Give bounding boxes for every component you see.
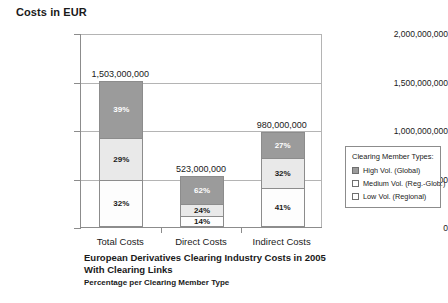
caption-line-3: Percentage per Clearing Member Type <box>84 278 384 287</box>
y-axis-tick-mark <box>74 228 81 229</box>
legend-swatch-low-icon <box>352 193 359 200</box>
y-axis-tick-label: 0 <box>370 223 448 233</box>
legend-swatch-medium-icon <box>352 180 359 187</box>
bar-segment-low[interactable]: 14% <box>180 216 224 227</box>
y-axis-tick-label: 1,000,000,000 <box>370 126 448 136</box>
bar-segment-high[interactable]: 39% <box>99 81 143 137</box>
x-axis-category-label: Indirect Costs <box>253 236 311 247</box>
bar-segment-low[interactable]: 32% <box>99 180 143 227</box>
chart-figure: Costs in EUR 0500,000,0001,000,000,0001,… <box>0 0 448 303</box>
bar-segment-high[interactable]: 62% <box>180 176 224 204</box>
chart-caption: European Derivatives Clearing Industry C… <box>84 252 384 287</box>
bar-total-costs[interactable]: 39%29%32% <box>99 81 143 227</box>
legend-item-medium[interactable]: Medium Vol. (Reg.-Glob.) <box>352 179 435 188</box>
legend-title: Clearing Member Types: <box>352 152 435 161</box>
bar-segment-high[interactable]: 27% <box>261 132 305 158</box>
bar-segment-medium[interactable]: 24% <box>180 204 224 216</box>
y-axis-tick-label: 2,000,000,000 <box>370 29 448 39</box>
bar-total-label: 523,000,000 <box>141 164 261 174</box>
legend-item-low[interactable]: Low Vol. (Regional) <box>352 192 435 201</box>
legend-item-label: Low Vol. (Regional) <box>363 192 426 201</box>
bar-indirect-costs[interactable]: 27%32%41% <box>261 132 305 227</box>
gridline <box>81 34 322 35</box>
caption-line-1: European Derivatives Clearing Industry C… <box>84 252 384 264</box>
y-axis-title: Costs in EUR <box>16 6 87 18</box>
x-axis-tick-mark <box>161 228 162 233</box>
bar-total-label: 980,000,000 <box>222 120 342 130</box>
legend-swatch-high-icon <box>352 167 359 174</box>
legend-item-label: High Vol. (Global) <box>363 166 420 175</box>
legend-item-label: Medium Vol. (Reg.-Glob.) <box>363 179 445 188</box>
legend-rows: High Vol. (Global)Medium Vol. (Reg.-Glob… <box>352 166 435 201</box>
y-axis-tick-label: 1,500,000,000 <box>370 78 448 88</box>
plot-area: 39%29%32%62%24%14%27%32%41% <box>80 34 322 228</box>
bar-segment-medium[interactable]: 29% <box>99 138 143 180</box>
bar-segment-medium[interactable]: 32% <box>261 158 305 188</box>
chart-legend: Clearing Member Types: High Vol. (Global… <box>345 146 441 208</box>
bar-segment-low[interactable]: 41% <box>261 188 305 227</box>
legend-item-high[interactable]: High Vol. (Global) <box>352 166 435 175</box>
x-axis-category-label: Direct Costs <box>175 236 227 247</box>
caption-line-2: With Clearing Links <box>84 264 384 276</box>
x-axis-category-label: Total Costs <box>97 236 144 247</box>
bar-direct-costs[interactable]: 62%24%14% <box>180 176 224 227</box>
x-axis-tick-mark <box>241 228 242 233</box>
bar-total-label: 1,503,000,000 <box>60 69 180 79</box>
